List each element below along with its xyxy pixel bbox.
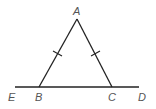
side-AB (39, 19, 77, 87)
triangle-diagram: A E B C D (0, 0, 156, 109)
tick-mark-AB (53, 51, 62, 56)
label-B: B (35, 91, 42, 103)
label-E: E (8, 91, 16, 103)
label-C: C (108, 91, 116, 103)
label-D: D (138, 91, 146, 103)
label-A: A (72, 5, 80, 17)
side-AC (77, 19, 112, 87)
